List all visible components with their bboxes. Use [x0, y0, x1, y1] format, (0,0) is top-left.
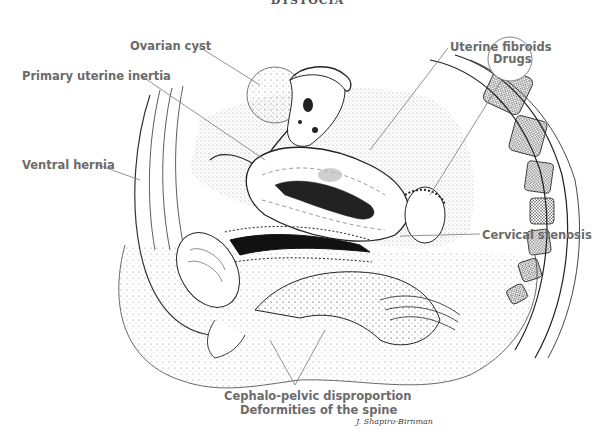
label-ventral-hernia: Ventral hernia: [22, 158, 115, 172]
artist-signature: J. Shapiro-Birnman: [356, 417, 433, 426]
pelvic-sagittal-illustration: [0, 0, 615, 446]
label-primary-uterine-inertia: Primary uterine inertia: [22, 69, 171, 83]
label-deformities-of-spine: Deformities of the spine: [240, 403, 397, 417]
fibroid: [318, 168, 342, 182]
label-cervical-stenosis: Cervical stenosis: [482, 228, 592, 242]
label-drugs: Drugs: [493, 52, 531, 66]
label-ovarian-cyst: Ovarian cyst: [130, 39, 211, 53]
label-cephalo-pelvic-disproportion: Cephalo-pelvic disproportion: [224, 389, 411, 403]
